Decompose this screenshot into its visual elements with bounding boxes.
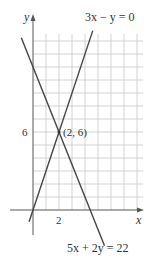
x-axis-label: x xyxy=(135,213,142,227)
x-tick-2: 2 xyxy=(56,214,62,226)
y-axis-label: y xyxy=(23,10,30,24)
y-tick-6: 6 xyxy=(22,126,28,138)
grid xyxy=(33,34,143,210)
intersection-point xyxy=(58,131,61,134)
line-5x-plus-2y xyxy=(21,38,104,246)
y-axis xyxy=(31,14,36,235)
line1-label: 3x − y = 0 xyxy=(85,10,135,24)
point-label: (2, 6) xyxy=(63,126,87,139)
line2-label: 5x + 2y = 22 xyxy=(67,241,129,255)
graph: y x 3x − y = 0 5x + 2y = 22 (2, 6) 2 6 xyxy=(0,0,151,261)
